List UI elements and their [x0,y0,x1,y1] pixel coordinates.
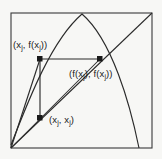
point-marker-fxj-fxj [97,56,103,62]
label-xj-xj: (xj, xj) [49,115,74,125]
label-xj-xj-sub2: j [69,119,71,126]
cobweb-diagram: (xj, f(xj)) (f(xj), f(xj)) (xj, xj) [0,0,162,159]
label-xj-fxj-mid: , f(x [23,39,39,50]
label-fxj-fxj-sub2: j [104,73,106,80]
point-marker-xj-xj [37,115,43,121]
label-xj-xj-suffix: ) [71,114,74,125]
point-marker-xj-fxj [37,56,43,62]
label-xj-fxj-suffix: )) [41,39,48,50]
label-xj-xj-prefix: (x [49,114,57,125]
map-curve [11,14,139,148]
label-xj-fxj-sub2: j [39,44,41,51]
label-xj-fxj-sub1: j [21,44,23,51]
label-fxj-fxj-mid: ), f(x [85,68,105,79]
label-xj-fxj: (xj, f(xj)) [13,40,47,50]
label-fxj-fxj-prefix: (f(x [69,68,83,79]
label-fxj-fxj: (f(xj), f(xj)) [69,69,113,79]
label-fxj-fxj-sub1: j [83,73,85,80]
label-xj-fxj-prefix: (x [13,39,21,50]
label-xj-xj-sub1: j [57,119,59,126]
label-fxj-fxj-suffix: )) [106,68,113,79]
identity-line [11,13,152,148]
label-xj-xj-mid: , x [59,114,69,125]
diagram-canvas [0,0,162,159]
